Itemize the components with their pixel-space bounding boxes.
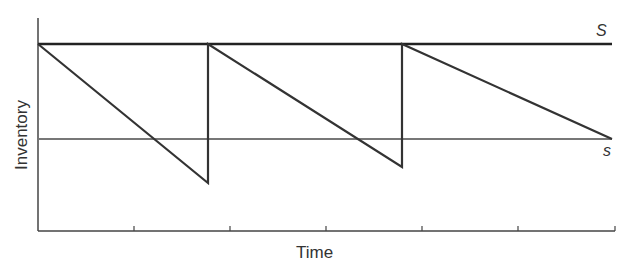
S-label: S	[596, 22, 607, 40]
inventory-chart	[0, 0, 631, 279]
y-axis-label: Inventory	[12, 110, 32, 170]
x-axis-label: Time	[296, 243, 333, 263]
inventory-sawtooth	[38, 44, 612, 183]
s-label: s	[603, 142, 611, 160]
